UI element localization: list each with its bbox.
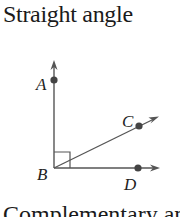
angle-diagram: A B C D (0, 0, 180, 217)
label-d: D (123, 175, 137, 194)
point-c (135, 122, 142, 129)
figure-caption: Complementary angle (3, 201, 180, 217)
point-a (50, 76, 57, 83)
point-d (134, 164, 141, 171)
arrowhead-icon (149, 117, 160, 124)
label-c: C (122, 112, 134, 131)
right-angle-marker (54, 152, 70, 168)
label-a: A (35, 75, 47, 94)
label-b: B (37, 165, 48, 184)
